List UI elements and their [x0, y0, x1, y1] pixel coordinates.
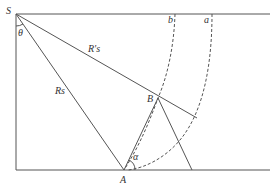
label-alpha: α	[133, 151, 139, 162]
label-A: A	[119, 174, 127, 185]
label-b: b	[168, 14, 173, 25]
segment-B-floor	[158, 98, 192, 170]
label-theta: θ	[18, 27, 23, 38]
theta-angle-arc	[16, 24, 23, 26]
segment-AB	[124, 98, 158, 170]
label-B: B	[147, 93, 153, 104]
ray-Rs-prime	[16, 14, 197, 118]
geometry-diagram: S θ R′s Rs B A α a b	[0, 0, 278, 191]
ray-Rs	[16, 14, 124, 170]
label-Rs: Rs	[54, 85, 65, 96]
label-S: S	[6, 5, 11, 16]
label-a: a	[204, 14, 209, 25]
dashed-curve-b	[124, 14, 175, 170]
dashed-curve-a	[128, 14, 212, 170]
label-Rs-prime: R′s	[87, 43, 100, 54]
